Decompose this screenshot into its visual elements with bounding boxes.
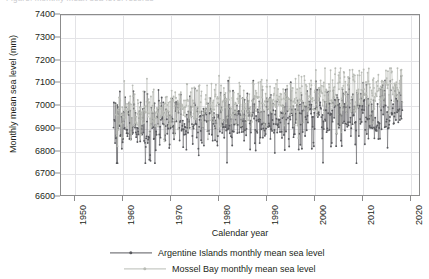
series-marker <box>224 107 226 109</box>
series-marker <box>198 154 200 156</box>
series-marker <box>263 124 265 126</box>
series-marker <box>128 113 130 115</box>
series-marker <box>146 111 148 113</box>
series-marker <box>217 96 219 98</box>
series-marker <box>337 82 339 84</box>
series-marker <box>236 109 238 111</box>
series-marker <box>366 95 368 97</box>
series-marker <box>240 104 242 106</box>
series-marker <box>293 136 295 138</box>
x-axis-tick-labels: 19501960197019801990200020102020 <box>60 196 420 230</box>
series-marker <box>296 122 298 124</box>
series-marker <box>350 109 352 111</box>
series-marker <box>241 131 243 133</box>
series-marker <box>203 145 205 147</box>
series-marker <box>156 134 158 136</box>
series-marker <box>394 112 396 114</box>
x-axis-tick-mark <box>362 196 363 201</box>
series-marker <box>146 101 148 103</box>
series-marker <box>188 105 190 107</box>
series-marker <box>231 145 233 147</box>
series-marker <box>350 111 352 113</box>
series-marker <box>365 81 367 83</box>
series-marker <box>297 125 299 127</box>
series-marker <box>113 127 115 129</box>
series-marker <box>140 101 142 103</box>
y-axis-tick-label: 7000 <box>35 100 55 110</box>
y-axis-tick-label: 6700 <box>35 168 55 178</box>
series-marker <box>211 134 213 136</box>
legend-entry[interactable]: Mossel Bay monthly mean sea level <box>0 261 429 277</box>
series-marker <box>386 77 388 79</box>
series-marker <box>295 92 297 94</box>
series-marker <box>231 114 233 116</box>
series-marker <box>128 106 130 108</box>
series-marker <box>164 102 166 104</box>
series-marker <box>241 110 243 112</box>
series-marker <box>230 122 232 124</box>
series-marker <box>377 80 379 82</box>
series-marker <box>272 105 274 107</box>
series-marker <box>264 130 266 132</box>
series-marker <box>216 141 218 143</box>
series-marker <box>345 109 347 111</box>
series-marker <box>184 126 186 128</box>
series-marker <box>304 135 306 137</box>
series-marker <box>181 128 183 130</box>
series-marker <box>315 84 317 86</box>
series-marker <box>257 111 259 113</box>
series-marker <box>273 123 275 125</box>
series-marker <box>388 113 390 115</box>
series-marker <box>269 125 271 127</box>
series-marker <box>379 138 381 140</box>
series-marker <box>174 105 176 107</box>
series-marker <box>319 87 321 89</box>
series-marker <box>179 139 181 141</box>
series-marker <box>224 126 226 128</box>
series-marker <box>266 79 268 81</box>
series-marker <box>373 108 375 110</box>
series-marker <box>331 102 333 104</box>
sea-level-chart-figure: Figure: monthly mean sea level records M… <box>0 0 429 279</box>
series-marker <box>197 113 199 115</box>
series-marker <box>278 96 280 98</box>
series-marker <box>245 115 247 117</box>
series-marker <box>386 118 388 120</box>
series-marker <box>245 134 247 136</box>
series-marker <box>168 147 170 149</box>
series-marker <box>355 130 357 132</box>
series-marker <box>273 132 275 134</box>
series-marker <box>293 125 295 127</box>
series-marker <box>338 71 340 73</box>
series-marker <box>178 109 180 111</box>
series-marker <box>304 79 306 81</box>
series-marker <box>262 102 264 104</box>
series-marker <box>359 118 361 120</box>
series-marker <box>341 87 343 89</box>
series-marker <box>400 93 402 95</box>
x-axis-tick-mark <box>74 196 75 201</box>
series-marker <box>369 83 371 85</box>
series-marker <box>149 118 151 120</box>
x-axis-tick-label: 1980 <box>222 205 232 225</box>
series-marker <box>274 152 276 154</box>
series-marker <box>324 67 326 69</box>
legend-entry[interactable]: Argentine Islands monthly mean sea level <box>0 245 429 261</box>
series-marker <box>144 162 146 164</box>
series-marker <box>333 97 335 99</box>
series-marker <box>330 113 332 115</box>
series-marker <box>237 93 239 95</box>
series-marker <box>204 111 206 113</box>
series-marker <box>121 137 123 139</box>
series-marker <box>275 116 277 118</box>
series-marker <box>360 101 362 103</box>
series-marker <box>374 96 376 98</box>
series-marker <box>172 101 174 103</box>
series-marker <box>392 107 394 109</box>
series-marker <box>210 119 212 121</box>
series-marker <box>127 133 129 135</box>
series-marker <box>378 127 380 129</box>
series-marker <box>244 108 246 110</box>
series-marker <box>326 89 328 91</box>
series-marker <box>199 115 201 117</box>
